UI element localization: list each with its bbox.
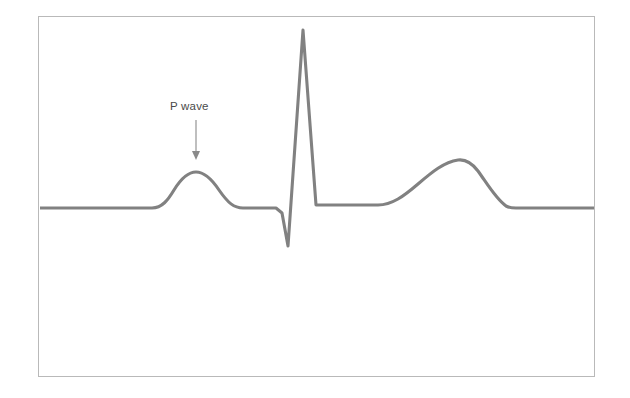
ecg-waveform-svg (0, 0, 630, 398)
p-wave-arrow-head (192, 151, 200, 160)
p-wave-arrow (192, 120, 200, 160)
ecg-trace-path (40, 30, 594, 246)
figure-root: P wave (0, 0, 630, 398)
p-wave-label: P wave (170, 99, 209, 113)
